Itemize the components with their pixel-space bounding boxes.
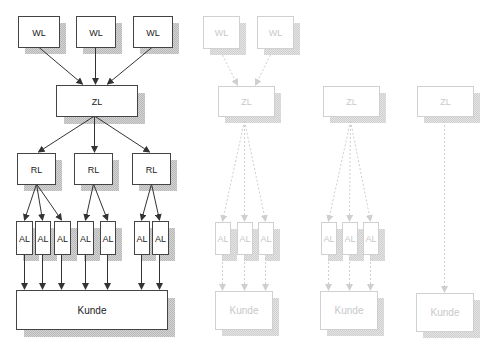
node-zl: ZL — [418, 87, 474, 117]
flow-arrow — [256, 55, 271, 85]
node-label: Kunde — [335, 305, 364, 316]
flow-arrow — [223, 55, 238, 85]
node-label: ZL — [241, 97, 252, 107]
node-al3: AL — [364, 223, 379, 255]
flow-arrow — [350, 121, 351, 221]
node-label: WL — [89, 28, 103, 38]
node-zl: ZL — [219, 87, 275, 117]
flow-arrow — [223, 121, 245, 221]
node-label: Kunde — [78, 305, 107, 316]
node-label: AL — [344, 234, 355, 244]
node-rl2: RL — [75, 154, 113, 185]
supply-chain-diagrams: WLWLWLZLRLRLRLALALALALALALALKundeWLWLZLA… — [0, 0, 492, 349]
full-network: WLWLWLZLRLRLRLALALALALALALALKunde — [17, 17, 173, 330]
node-label: WL — [146, 28, 160, 38]
node-label: RL — [31, 165, 43, 175]
node-label: AL — [80, 234, 91, 244]
node-al2: AL — [343, 223, 358, 255]
flow-arrow — [245, 121, 266, 221]
node-rl1: RL — [18, 154, 56, 185]
node-al1: AL — [216, 223, 231, 255]
node-label: AL — [37, 234, 48, 244]
node-label: AL — [136, 234, 147, 244]
node-wl3: WL — [134, 17, 173, 48]
two-warehouse-path-shadows — [210, 23, 300, 336]
node-wl2: WL — [77, 17, 116, 48]
node-al1: AL — [322, 223, 337, 255]
node-label: WL — [269, 28, 283, 38]
node-label: AL — [239, 234, 250, 244]
node-label: WL — [215, 28, 229, 38]
node-label: AL — [217, 234, 228, 244]
node-label: RL — [146, 165, 158, 175]
node-wl2: WL — [258, 17, 294, 49]
node-zl: ZL — [57, 86, 138, 117]
node-rl3: RL — [133, 154, 171, 185]
node-label: ZL — [346, 97, 357, 107]
node-label: WL — [32, 28, 46, 38]
node-al2: AL — [36, 222, 51, 255]
node-al3: AL — [55, 222, 71, 255]
two-warehouse-path: WLWLZLALALALKunde — [204, 17, 294, 330]
node-al5: AL — [101, 222, 116, 255]
node-label: ZL — [440, 97, 451, 107]
central-warehouse-path-arrows — [329, 121, 371, 290]
flow-arrow — [351, 121, 371, 221]
node-label: Kunde — [230, 305, 259, 316]
node-label: AL — [260, 234, 271, 244]
node-kunde: Kunde — [417, 294, 474, 332]
node-al3: AL — [259, 223, 274, 255]
node-label: AL — [155, 234, 166, 244]
flow-arrow — [329, 121, 351, 221]
node-kunde: Kunde — [321, 292, 378, 330]
node-label: Kunde — [431, 307, 460, 318]
node-label: RL — [88, 165, 100, 175]
node-zl: ZL — [324, 87, 380, 117]
node-label: AL — [323, 234, 334, 244]
node-label: AL — [57, 234, 68, 244]
node-kunde: Kunde — [216, 292, 273, 330]
node-wl1: WL — [19, 17, 60, 48]
node-al4: AL — [78, 222, 94, 255]
node-label: AL — [19, 234, 30, 244]
node-kunde: Kunde — [17, 291, 168, 330]
node-al6: AL — [135, 222, 150, 255]
node-label: AL — [365, 234, 376, 244]
node-label: ZL — [92, 97, 103, 107]
node-al2: AL — [238, 223, 253, 255]
node-wl1: WL — [204, 17, 240, 49]
node-label: AL — [102, 234, 113, 244]
node-al1: AL — [17, 222, 33, 255]
node-al7: AL — [153, 222, 169, 255]
